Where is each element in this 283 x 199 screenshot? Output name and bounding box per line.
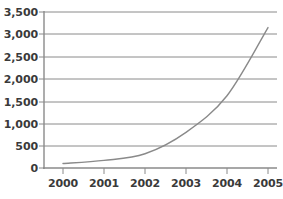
y-axis-label-500: 500 xyxy=(0,141,38,152)
x-axis-label-2004: 2004 xyxy=(207,178,247,189)
x-axis-label-2005: 2005 xyxy=(248,178,283,189)
gridlines xyxy=(44,12,277,146)
y-tick-marks xyxy=(39,12,44,168)
x-axis-label-2001: 2001 xyxy=(84,178,124,189)
y-axis-label-3000: 3,000 xyxy=(0,29,38,40)
y-axis-label-1500: 1,500 xyxy=(0,97,38,108)
y-axis-label-2000: 2,000 xyxy=(0,74,38,85)
y-axis-label-3500: 3,500 xyxy=(0,7,38,18)
x-axis-label-2002: 2002 xyxy=(125,178,165,189)
y-axis-label-1000: 1,000 xyxy=(0,119,38,130)
x-axis-label-2003: 2003 xyxy=(166,178,206,189)
x-axis-label-2000: 2000 xyxy=(43,178,83,189)
chart-plot-area xyxy=(0,0,283,199)
y-axis-label-0: 0 xyxy=(0,163,38,174)
data-series-line xyxy=(63,28,268,164)
line-chart: 3,500 3,000 2,500 2,000 1,500 1,000 500 … xyxy=(0,0,283,199)
x-tick-marks xyxy=(63,168,268,174)
y-axis-label-2500: 2,500 xyxy=(0,52,38,63)
